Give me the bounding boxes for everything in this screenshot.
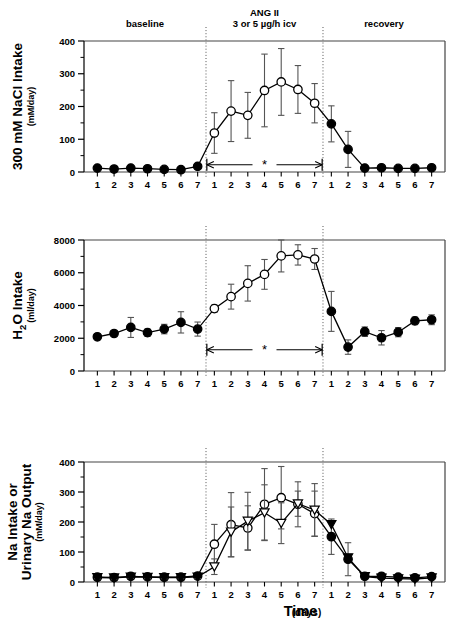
data-point-circle: [294, 251, 302, 259]
x-tick-label: 4: [145, 378, 151, 389]
x-tick-label: 7: [195, 589, 200, 600]
panel-top-y-units: (mM/day): [26, 87, 36, 127]
significance-bar: *: [207, 157, 322, 172]
y-axis-ticks: 02000400060008000: [54, 235, 84, 377]
y-tick-label: 4000: [54, 300, 75, 311]
x-tick-label: 2: [111, 179, 116, 190]
data-point-circle: [344, 343, 352, 351]
x-tick-label: 1: [95, 378, 101, 389]
data-point-circle: [227, 107, 235, 115]
x-tick-label: 5: [396, 378, 402, 389]
y-tick-label: 300: [59, 68, 75, 79]
x-tick-label: 6: [178, 179, 183, 190]
x-tick-label: 1: [212, 589, 218, 600]
y-tick-label: 0: [70, 167, 75, 178]
x-tick-label: 3: [362, 589, 367, 600]
data-point-circle: [394, 164, 402, 172]
data-point-circle: [110, 165, 118, 173]
x-tick-label: 2: [345, 378, 350, 389]
data-point-circle: [110, 329, 118, 337]
y-tick-label: 400: [59, 36, 75, 47]
data-point-circle: [227, 292, 235, 300]
data-point-circle: [277, 78, 285, 86]
y-tick-label: 200: [59, 517, 75, 528]
data-point-circle: [143, 328, 151, 336]
y-tick-label: 100: [59, 134, 75, 145]
x-tick-label: 1: [212, 179, 218, 190]
treatment-phase-label-line1: ANG II: [250, 7, 279, 18]
data-point-circle: [127, 323, 135, 331]
y-tick-label: 0: [70, 366, 75, 377]
x-tick-label: 7: [429, 589, 434, 600]
x-tick-label: 6: [295, 179, 300, 190]
y-tick-label: 6000: [54, 267, 75, 278]
x-tick-label: 3: [245, 179, 250, 190]
x-tick-label: 1: [95, 589, 101, 600]
x-tick-label: 6: [295, 589, 300, 600]
data-point-circle: [160, 325, 168, 333]
x-tick-label: 3: [362, 179, 367, 190]
multi-panel-line-chart: baselineANG II3 or 5 µg/h icvrecovery010…: [0, 0, 465, 630]
x-tick-label: 2: [111, 589, 116, 600]
x-tick-label: 1: [95, 179, 101, 190]
x-tick-label: 4: [379, 179, 385, 190]
panel-middle-y-units: (ml/day): [26, 288, 36, 323]
data-point-circle: [310, 99, 318, 107]
data-point-triangle: [210, 563, 219, 571]
x-tick-label: 2: [111, 378, 116, 389]
x-tick-label: 5: [396, 589, 402, 600]
x-tick-label: 2: [228, 378, 233, 389]
x-tick-label: 2: [228, 179, 233, 190]
data-point-circle: [394, 328, 402, 336]
data-point-circle: [260, 270, 268, 278]
panel-top: 0100200300400123456712345671234567*: [59, 27, 445, 190]
x-tick-label: 6: [178, 378, 183, 389]
x-tick-label: 5: [396, 179, 402, 190]
x-tick-label: 5: [162, 589, 168, 600]
x-tick-label: 6: [412, 589, 417, 600]
x-axis-ticks: 123456712345671234567: [95, 172, 435, 190]
x-tick-label: 3: [128, 179, 133, 190]
data-point-circle: [210, 304, 218, 312]
data-point-circle: [244, 279, 252, 287]
y-tick-label: 0: [70, 577, 75, 588]
data-point-circle: [93, 164, 101, 172]
panel-middle-y-title-group: H2O Intake(ml/day): [10, 271, 36, 340]
data-point-circle: [411, 164, 419, 172]
y-axis-ticks: 0100200300400: [59, 457, 84, 588]
x-tick-label: 4: [379, 589, 385, 600]
x-tick-label: 6: [412, 179, 417, 190]
series-1: [93, 240, 436, 354]
x-tick-label: 6: [295, 378, 300, 389]
x-tick-label: 4: [145, 589, 151, 600]
x-tick-label: 3: [245, 589, 250, 600]
data-point-circle: [260, 86, 268, 94]
data-point-triangle: [226, 528, 235, 536]
x-axis-ticks: 123456712345671234567: [95, 371, 435, 389]
x-tick-label: 7: [195, 179, 200, 190]
x-tick-label: 3: [128, 589, 133, 600]
x-tick-label: 3: [128, 378, 133, 389]
x-tick-label: 5: [279, 589, 285, 600]
x-tick-label: 4: [379, 378, 385, 389]
x-axis-title-group: Time(days): [284, 603, 322, 619]
recovery-phase-label: recovery: [364, 18, 404, 29]
y-tick-label: 100: [59, 547, 75, 558]
figure-container: baselineANG II3 or 5 µg/h icvrecovery010…: [0, 0, 465, 630]
x-tick-label: 5: [279, 179, 285, 190]
x-tick-label: 7: [312, 589, 317, 600]
data-point-circle: [327, 120, 335, 128]
error-bars: [94, 49, 435, 171]
y-tick-label: 8000: [54, 235, 75, 246]
y-tick-label: 300: [59, 487, 75, 498]
data-point-circle: [93, 333, 101, 341]
x-tick-label: 2: [345, 179, 350, 190]
x-tick-label: 3: [245, 378, 250, 389]
x-tick-label: 7: [195, 378, 200, 389]
data-point-circle: [244, 111, 252, 119]
data-point-circle: [277, 494, 285, 502]
panel-bottom: 0100200300400123456712345671234567: [59, 448, 445, 600]
x-tick-label: 5: [162, 378, 168, 389]
x-tick-label: 4: [145, 179, 151, 190]
panel-bottom-y-units: (mM/day): [34, 502, 44, 542]
